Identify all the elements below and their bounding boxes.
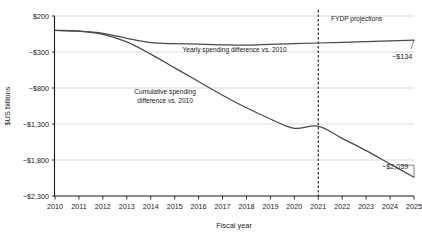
x-axis-title: Fiscal year [216, 221, 252, 230]
x-axis-tick-label: 2022 [334, 202, 350, 211]
x-axis-tick-label: 2016 [191, 202, 207, 211]
x-axis-tick-label: 2010 [47, 202, 63, 211]
yearly-end-leader-line [411, 40, 414, 49]
gridlines-group [55, 16, 414, 160]
annotation-cumulative-series-label-line1: Cumulative spending [134, 88, 196, 96]
y-axis-tick-label: −$1,300 [23, 120, 49, 129]
x-axis-tick-label: 2023 [358, 202, 374, 211]
x-axis-tick-label: 2013 [119, 202, 135, 211]
annotation-cumulative-series-label-line2: difference vs. 2010 [137, 97, 193, 104]
x-axis-tick-label: 2021 [310, 202, 326, 211]
x-axis-tick-label: 2020 [286, 202, 302, 211]
y-axis-tick-label: −$2,300 [23, 192, 49, 201]
x-axis-tick-label: 2015 [167, 202, 183, 211]
line-chart: $200−$300−$800−$1,300−$1,800−$2,300 2010… [0, 0, 422, 241]
y-axis-tick-label: −$800 [29, 84, 49, 93]
x-axis-tick-label: 2018 [238, 202, 254, 211]
x-axis-tick-label: 2014 [143, 202, 159, 211]
annotation-yearly-series-label: Yearly spending difference vs. 2010 [182, 46, 286, 54]
y-axis-title: $US billions [3, 86, 12, 125]
x-axis-tick-label: 2017 [215, 202, 231, 211]
x-axis-ticks-group: 2010201120122013201420152016201720182019… [47, 196, 422, 211]
annotation-fydp-projections: FYDP projections [331, 15, 383, 23]
end-label-cumulative-value: −$2,039 [382, 162, 408, 171]
x-axis-tick-label: 2024 [382, 202, 398, 211]
y-axis-ticks-group: $200−$300−$800−$1,300−$1,800−$2,300 [23, 12, 55, 201]
end-label-yearly-value: −$134 [392, 52, 412, 61]
x-axis-tick-label: 2019 [262, 202, 278, 211]
y-axis-tick-label: $200 [33, 12, 49, 21]
x-axis-tick-label: 2011 [71, 202, 86, 211]
series-line-yearly-spending [55, 30, 414, 45]
chart-container: $200−$300−$800−$1,300−$1,800−$2,300 2010… [0, 0, 422, 241]
x-axis-tick-label: 2012 [95, 202, 111, 211]
y-axis-tick-label: −$300 [29, 48, 49, 57]
x-axis-tick-label: 2025 [406, 202, 422, 211]
y-axis-tick-label: −$1,800 [23, 156, 49, 165]
